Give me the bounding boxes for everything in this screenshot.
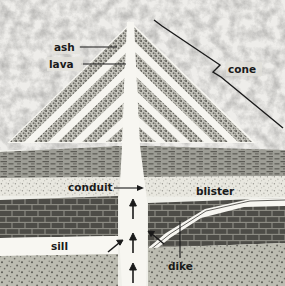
label-cone: cone xyxy=(228,63,256,75)
volcano-cross-section-figure: ash lava cone conduit blister sill dike xyxy=(0,0,285,286)
label-dike: dike xyxy=(168,260,193,272)
label-ash: ash xyxy=(54,41,75,53)
rock-strata xyxy=(0,146,285,286)
label-sill: sill xyxy=(51,240,68,252)
stratum-granite-left xyxy=(0,254,118,286)
stratum-limestone-left xyxy=(0,196,118,238)
diagram-canvas: ash lava cone conduit blister sill dike xyxy=(0,0,285,286)
label-lava: lava xyxy=(49,58,74,70)
label-conduit: conduit xyxy=(68,181,113,193)
label-blister: blister xyxy=(196,185,235,197)
